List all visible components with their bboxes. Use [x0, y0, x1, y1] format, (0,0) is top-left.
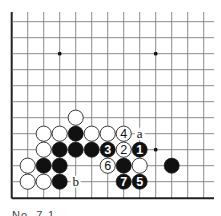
black-stone — [84, 142, 99, 157]
black-stone — [68, 142, 83, 157]
white-stone — [132, 158, 147, 173]
white-stone — [68, 110, 83, 125]
white-stone-6: 6 — [100, 158, 115, 173]
move-number: 4 — [120, 127, 127, 141]
point-label-a: a — [137, 126, 143, 141]
diagram-caption: No. 7-1 — [12, 209, 55, 216]
black-stone — [52, 158, 67, 173]
move-number: 7 — [120, 175, 127, 189]
white-stone-2: 2 — [116, 142, 131, 157]
star-point — [154, 148, 158, 152]
white-stone — [36, 174, 51, 189]
move-number: 1 — [136, 143, 143, 157]
point-label-b: b — [72, 174, 79, 189]
black-stone-5: 5 — [132, 174, 147, 189]
white-stone-4: 4 — [116, 126, 131, 141]
move-number: 5 — [136, 175, 143, 189]
star-point — [154, 52, 158, 56]
move-number: 3 — [104, 143, 111, 157]
white-stone — [52, 126, 67, 141]
white-stone — [36, 126, 51, 141]
black-stone — [68, 126, 83, 141]
black-stone-1: 1 — [132, 142, 147, 157]
white-stone — [20, 158, 35, 173]
move-number: 2 — [120, 143, 127, 157]
black-stone — [164, 158, 179, 173]
white-stone — [84, 126, 99, 141]
black-stone-3: 3 — [100, 142, 115, 157]
white-stone — [36, 142, 51, 157]
black-stone — [52, 174, 67, 189]
move-number: 6 — [104, 159, 111, 173]
go-board-diagram: ab 4321675 — [0, 0, 221, 216]
white-stone — [100, 126, 115, 141]
black-stone-7: 7 — [116, 174, 131, 189]
black-stone — [116, 158, 131, 173]
black-stone — [52, 142, 67, 157]
star-point — [58, 52, 62, 56]
black-stone — [36, 158, 51, 173]
white-stone — [20, 174, 35, 189]
